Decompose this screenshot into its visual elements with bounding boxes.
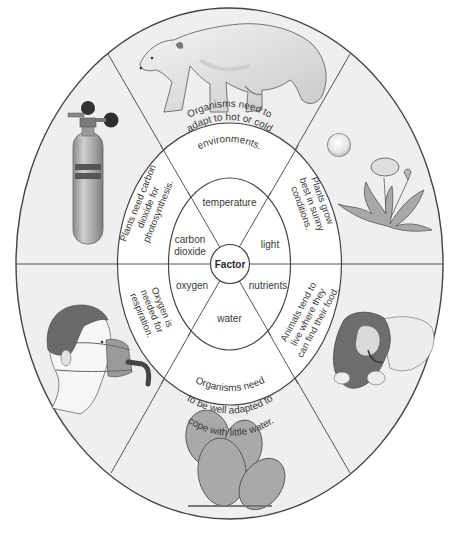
factor-label-temperature: temperature bbox=[203, 197, 257, 208]
factor-label-carbon-dioxide-1: carbon bbox=[175, 234, 206, 245]
sun-illustration bbox=[328, 134, 351, 157]
factor-label-nutrients: nutrients bbox=[249, 280, 287, 291]
factor-label-water: water bbox=[216, 313, 242, 324]
factor-label-carbon-dioxide-2: dioxide bbox=[174, 246, 206, 257]
factor-label-oxygen: oxygen bbox=[176, 280, 208, 291]
explanation-water: Organisms need to be well adapted to cop… bbox=[185, 374, 275, 438]
center-label: Factor bbox=[215, 259, 246, 270]
environmental-factors-diagram: Organisms need to adapt to hot or cold e… bbox=[0, 0, 454, 538]
factor-label-light: light bbox=[261, 239, 280, 250]
